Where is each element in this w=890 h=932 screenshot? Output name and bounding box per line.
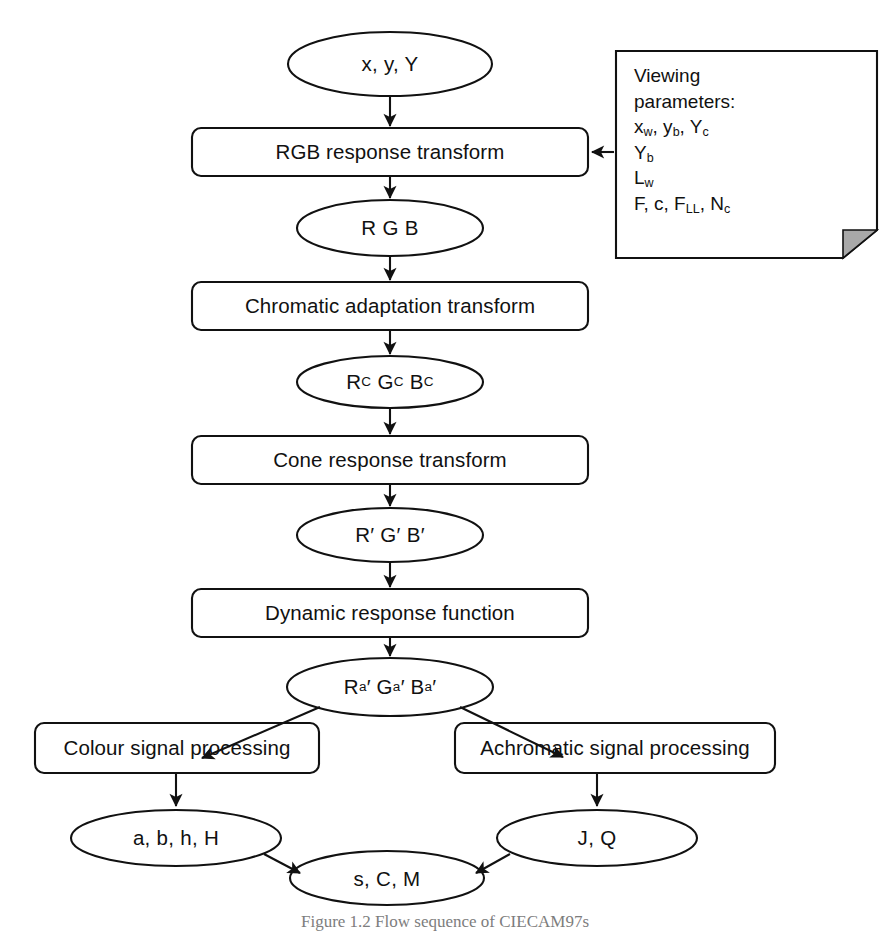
note-viewing-parameters-shape — [616, 51, 877, 258]
node-sCM-ellipse — [290, 851, 484, 905]
node-rgb-prime-ellipse — [297, 508, 483, 562]
node-rgb-c-ellipse — [297, 356, 483, 408]
node-chromatic-adaptation-box — [192, 282, 588, 330]
node-input-ellipse — [288, 32, 492, 96]
arrow-JQ-to-sCM — [476, 854, 510, 873]
note-fold-corner-icon — [843, 230, 877, 258]
node-abhH-ellipse — [71, 810, 281, 866]
node-cone-response-box — [192, 436, 588, 484]
node-achromatic-signal-box — [455, 723, 775, 773]
node-JQ-ellipse — [497, 810, 697, 866]
node-colour-signal-box — [35, 723, 319, 773]
arrow-abhH-to-sCM — [264, 854, 300, 873]
node-dynamic-response-box — [192, 589, 588, 637]
figure-caption: Figure 1.2 Flow sequence of CIECAM97s — [0, 912, 890, 932]
node-rgb-ellipse — [297, 200, 483, 256]
node-rgb-response-box — [192, 128, 588, 176]
